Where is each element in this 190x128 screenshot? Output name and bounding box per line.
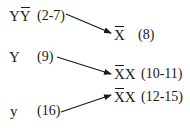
node-yybar-barred: Y — [20, 9, 31, 23]
node-xbar-barred: X — [114, 28, 125, 42]
node-xbarx2-suffix: X — [125, 89, 136, 105]
node-xbarx1-suffix: X — [125, 66, 136, 82]
node-Y: Y — [9, 50, 20, 64]
node-xbarx1-label: (10-11) — [141, 67, 182, 81]
node-yybar-prefix: Y — [9, 8, 20, 24]
node-xbar-label: (8) — [138, 28, 154, 42]
node-xbar: X — [114, 28, 125, 42]
node-y-prefix: y — [10, 103, 18, 119]
node-xbarx1-barred: X — [114, 67, 125, 81]
node-xbarx2: XX — [114, 90, 136, 104]
arrow-yybar-to-xbar — [66, 14, 111, 33]
node-Y-label: (9) — [37, 50, 53, 64]
node-y-label: (16) — [37, 104, 60, 118]
arrow-Y-to-xbarx1 — [57, 57, 111, 74]
node-xbarx2-label: (12-15) — [141, 90, 183, 104]
node-xbarx2-barred: X — [114, 90, 125, 104]
arrow-y-to-xbarx2 — [61, 95, 111, 112]
node-Y-prefix: Y — [9, 49, 20, 65]
node-yybar-label: (2-7) — [37, 9, 65, 23]
node-yybar: YY — [9, 9, 31, 23]
node-xbarx1: XX — [114, 67, 136, 81]
node-y: y — [10, 104, 18, 118]
